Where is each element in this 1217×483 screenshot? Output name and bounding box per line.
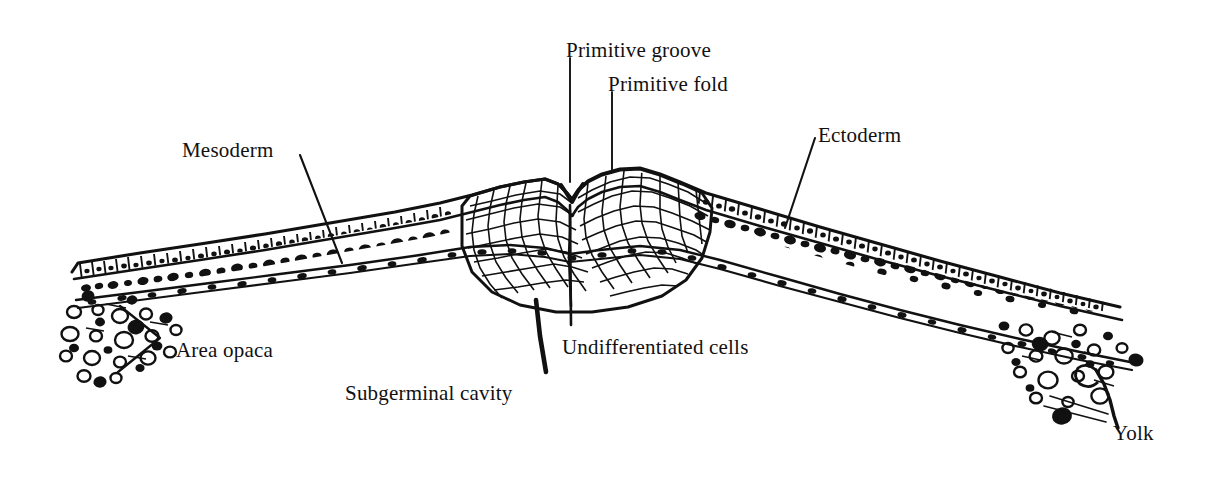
label-yolk: Yolk	[1113, 423, 1154, 444]
yolk-granules-right	[999, 321, 1145, 428]
leader-ectoderm	[785, 138, 815, 228]
ectoderm-epithelium	[72, 168, 1122, 320]
leader-mesoderm	[300, 155, 342, 263]
leader-lines	[118, 58, 1108, 422]
label-mesoderm: Mesoderm	[182, 140, 273, 161]
yolk-granules-left	[60, 289, 182, 389]
label-ectoderm: Ectoderm	[818, 125, 901, 146]
label-primitive-fold: Primitive fold	[608, 74, 728, 95]
label-primitive-groove: Primitive groove	[566, 40, 711, 61]
label-area-opaca: Area opaca	[176, 340, 273, 361]
label-subgerminal-cavity: Subgerminal cavity	[345, 383, 512, 404]
primitive-streak-mass	[462, 169, 712, 312]
leader-primitive-groove-lower	[570, 210, 571, 325]
label-undifferentiated-cells: Undifferentiated cells	[562, 337, 749, 358]
blastoderm-section	[60, 58, 1145, 428]
